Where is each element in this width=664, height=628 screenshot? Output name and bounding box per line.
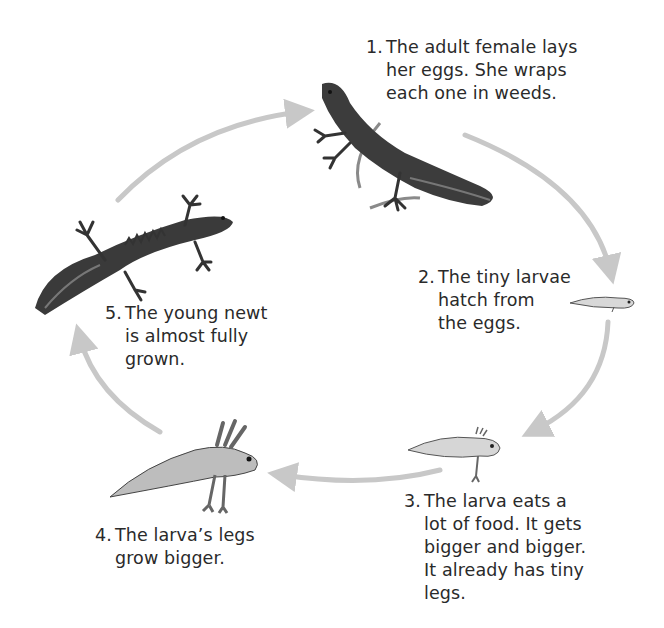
caption-line: The larva’s legs bbox=[115, 524, 255, 547]
caption-line: legs. bbox=[424, 582, 586, 605]
caption-line: hatch from bbox=[438, 289, 571, 312]
newt-life-cycle-diagram: 1. The adult female lays her eggs. She w… bbox=[0, 0, 664, 628]
stage-5-caption: 5. The young newt is almost fully grown. bbox=[105, 302, 267, 371]
caption-line: The larva eats a bbox=[424, 490, 586, 513]
caption-line: grow bigger. bbox=[115, 547, 255, 570]
stage-4-caption: 4. The larva’s legs grow bigger. bbox=[95, 524, 255, 570]
caption-line: It already has tiny bbox=[424, 559, 586, 582]
stage-number: 2. bbox=[418, 266, 435, 289]
arrow-5-to-1 bbox=[118, 112, 300, 200]
stage-3-caption: 3. The larva eats a lot of food. It gets… bbox=[404, 490, 586, 605]
caption-line: grown. bbox=[125, 348, 267, 371]
caption-line: The adult female lays bbox=[386, 36, 577, 59]
arrow-2-to-3 bbox=[535, 322, 608, 430]
caption-line: the eggs. bbox=[438, 312, 571, 335]
stage-number: 4. bbox=[95, 524, 112, 547]
stage-number: 1. bbox=[366, 36, 383, 59]
caption-line: is almost fully bbox=[125, 325, 267, 348]
stage-2-caption: 2. The tiny larvae hatch from the eggs. bbox=[418, 266, 571, 335]
caption-line: her eggs. She wraps bbox=[386, 59, 577, 82]
larva-with-gills-and-legs-icon bbox=[105, 415, 265, 515]
caption-line: The young newt bbox=[125, 302, 267, 325]
young-newt-icon bbox=[25, 190, 240, 320]
stage-number: 5. bbox=[105, 302, 122, 325]
larva-with-tiny-legs-icon bbox=[400, 424, 510, 486]
stage-1-caption: 1. The adult female lays her eggs. She w… bbox=[366, 36, 577, 105]
caption-line: bigger and bigger. bbox=[424, 536, 586, 559]
caption-line: The tiny larvae bbox=[438, 266, 571, 289]
stage-number: 3. bbox=[404, 490, 421, 513]
caption-line: each one in weeds. bbox=[386, 82, 577, 105]
caption-line: lot of food. It gets bbox=[424, 513, 586, 536]
tiny-larva-icon bbox=[568, 292, 638, 314]
